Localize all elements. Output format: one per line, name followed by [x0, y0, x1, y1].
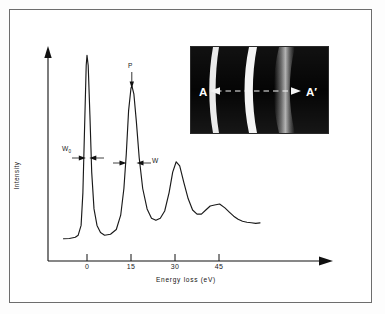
electron-micrograph-inset: A' --> A A′: [191, 47, 328, 133]
x-axis-arrowhead: [319, 257, 333, 266]
x-tick-label-0: 0: [77, 263, 97, 270]
figure-root: Intensity Energy loss (eV) 0 15 30 45 P …: [0, 0, 385, 314]
x-tick-label-30: 30: [165, 263, 185, 270]
inset-label-A: A: [199, 86, 207, 98]
inset-label-A-prime: A′: [306, 86, 317, 98]
plot-area: Intensity Energy loss (eV) 0 15 30 45 P …: [0, 0, 385, 314]
x-tick-marks: [87, 254, 219, 261]
w0-arrowhead-left: [79, 156, 86, 161]
y-axis-title: Intensity: [13, 146, 20, 206]
inset-image: A' --> A A′: [191, 47, 328, 133]
plasmon-width-label: W: [152, 157, 158, 164]
peak-arrow-head: [130, 82, 134, 89]
w0-arrowhead-right: [89, 156, 96, 161]
peak-label-P: P: [128, 62, 133, 69]
y-axis-arrowhead: [44, 46, 51, 58]
x-axis-title: Energy loss (eV): [86, 276, 286, 283]
x-tick-label-45: 45: [209, 263, 229, 270]
x-tick-label-15: 15: [121, 263, 141, 270]
zero-loss-width-label: W0: [62, 145, 71, 154]
